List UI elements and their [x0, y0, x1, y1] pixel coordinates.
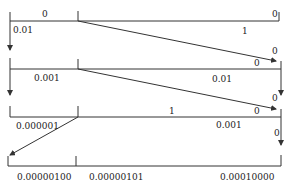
row1-right-bottom-label: 1: [242, 26, 248, 36]
row3-left-bottom-label: 0.000001: [16, 121, 59, 131]
row1-right-top-label: 0: [272, 9, 278, 19]
row3-right-top-mid-label: 1: [169, 106, 175, 116]
row3-right-top-label: 0: [254, 106, 260, 116]
row-2: 0.001 0 0.01 0: [10, 58, 281, 109]
interval-subdivision-diagram: 0 0.01 0 1 0 0.001 0 0.01 0 0.000001 1 0…: [0, 0, 287, 189]
row-4: 0.00000100 0.00000101 0.00010000: [8, 155, 281, 182]
row3-down-arrow-label: 0: [274, 128, 280, 138]
row2-left-bottom-label: 0.001: [34, 73, 60, 83]
row3-right-bottom-label: 0.001: [216, 120, 242, 130]
row-1: 0 0.01 0 1 0: [10, 9, 279, 61]
row2-right-bottom-label: 0.01: [212, 74, 232, 84]
row4-seg2-label: 0.00000101: [89, 172, 143, 182]
row1-left-bottom-label: 0.01: [13, 25, 33, 35]
row4-seg3-label: 0.00010000: [220, 172, 275, 182]
row2-right-top-label: 0: [254, 58, 260, 68]
row4-seg1-label: 0.00000100: [17, 172, 72, 182]
row2-arrow-label: 0: [272, 93, 278, 103]
row1-arrow-label: 0: [272, 46, 278, 56]
row1-left-top-label: 0: [42, 9, 48, 19]
row2-zoom-arrow: [78, 69, 276, 109]
row-3: 0.000001 1 0 0.001 0: [10, 106, 281, 155]
